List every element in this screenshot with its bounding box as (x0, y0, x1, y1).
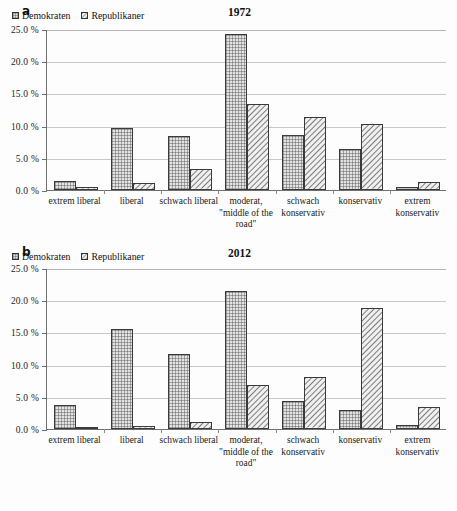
bar-demokraten[interactable] (282, 401, 304, 429)
bar-fill (362, 125, 382, 189)
bar-group (47, 269, 104, 429)
legend-swatch-republikaner-icon (81, 253, 88, 260)
bar-demokraten[interactable] (396, 187, 418, 190)
bar-group (104, 30, 161, 190)
x-axis-separator (104, 429, 105, 433)
x-axis-label: moderat, "middle of the road" (213, 435, 278, 470)
bar-demokraten[interactable] (225, 34, 247, 190)
x-axis-separator (276, 190, 277, 194)
y-axis-label: 15.0 % (11, 328, 39, 338)
x-axis-separator (390, 429, 391, 433)
bar-group (276, 269, 333, 429)
bar-fill (283, 136, 303, 189)
bar-group (161, 269, 218, 429)
bar-fill (305, 118, 325, 189)
bar-fill (134, 427, 154, 428)
legend-swatch-demokraten-icon (12, 253, 19, 260)
bar-republikaner[interactable] (361, 124, 383, 190)
x-axis-separator (390, 190, 391, 194)
bar-demokraten[interactable] (225, 291, 247, 429)
y-axis-label: 5.0 % (16, 154, 39, 164)
x-axis-label: konservativ (328, 435, 393, 447)
bar-republikaner[interactable] (361, 308, 383, 429)
y-axis-label: 0.0 % (16, 425, 39, 435)
x-axis-separator (161, 429, 162, 433)
bar-republikaner[interactable] (76, 427, 98, 429)
legend-item-demokraten: Demokraten (12, 10, 70, 21)
bar-fill (226, 35, 246, 189)
bar-fill (191, 170, 211, 189)
bar-fill (397, 426, 417, 428)
y-axis-label: 10.0 % (11, 361, 39, 371)
bar-republikaner[interactable] (304, 117, 326, 190)
bar-demokraten[interactable] (168, 354, 190, 429)
panel-a: a 1972 Demokraten Republikaner 0.0 %5.0 … (0, 0, 457, 240)
legend-a: Demokraten Republikaner (12, 10, 144, 21)
bar-group (333, 269, 390, 429)
bar-fill (397, 188, 417, 189)
x-axis-label: extrem liberal (42, 196, 107, 208)
bar-demokraten[interactable] (282, 135, 304, 190)
legend-swatch-demokraten-icon (12, 12, 19, 19)
y-axis-label: 10.0 % (11, 122, 39, 132)
bar-demokraten[interactable] (396, 425, 418, 429)
bar-fill (283, 402, 303, 428)
bar-republikaner[interactable] (190, 422, 212, 429)
y-axis-tick (42, 430, 47, 431)
bar-demokraten[interactable] (111, 329, 133, 429)
legend-label-demokraten: Demokraten (22, 10, 70, 21)
bar-republikaner[interactable] (76, 187, 98, 190)
x-axis-separator (218, 190, 219, 194)
legend-label-demokraten: Demokraten (22, 251, 70, 262)
figure-root: a 1972 Demokraten Republikaner 0.0 %5.0 … (0, 0, 457, 511)
y-axis-label: 25.0 % (11, 25, 39, 35)
bar-group (390, 30, 447, 190)
plot-area-a: 0.0 %5.0 %10.0 %15.0 %20.0 %25.0 % (46, 30, 446, 191)
bar-fill (55, 406, 75, 428)
bar-republikaner[interactable] (418, 182, 440, 190)
legend-item-republikaner: Republikaner (81, 251, 144, 262)
bar-demokraten[interactable] (54, 405, 76, 429)
bar-demokraten[interactable] (54, 181, 76, 190)
x-axis-separator (333, 429, 334, 433)
plot-area-b: 0.0 %5.0 %10.0 %15.0 %20.0 %25.0 % (46, 269, 446, 430)
bar-group (276, 30, 333, 190)
x-axis-label: extrem konservativ (385, 196, 450, 219)
bar-demokraten[interactable] (111, 128, 133, 190)
y-axis-label: 15.0 % (11, 89, 39, 99)
bar-group (218, 269, 275, 429)
x-axis-label: schwach liberal (156, 196, 221, 208)
bar-group (390, 269, 447, 429)
x-axis-separator (218, 429, 219, 433)
bar-republikaner[interactable] (133, 426, 155, 429)
bar-group (218, 30, 275, 190)
bar-demokraten[interactable] (339, 410, 361, 429)
x-axis-label: konservativ (328, 196, 393, 208)
legend-label-republikaner: Republikaner (91, 251, 144, 262)
bar-fill (77, 188, 97, 189)
bar-fill (134, 184, 154, 189)
bar-republikaner[interactable] (190, 169, 212, 190)
bar-republikaner[interactable] (418, 407, 440, 429)
bar-demokraten[interactable] (168, 136, 190, 190)
bar-republikaner[interactable] (133, 183, 155, 190)
bar-fill (55, 182, 75, 189)
y-axis-label: 25.0 % (11, 264, 39, 274)
bar-republikaner[interactable] (247, 104, 269, 190)
bar-republikaner[interactable] (304, 377, 326, 429)
x-axis-separator (333, 190, 334, 194)
bar-fill (419, 408, 439, 428)
bar-fill (169, 137, 189, 189)
bar-group (104, 269, 161, 429)
y-axis-tick (42, 191, 47, 192)
bar-fill (226, 292, 246, 428)
x-axis-separator (104, 190, 105, 194)
bar-demokraten[interactable] (339, 149, 361, 190)
legend-swatch-republikaner-icon (81, 12, 88, 19)
legend-label-republikaner: Republikaner (91, 10, 144, 21)
x-axis-label: liberal (99, 196, 164, 208)
x-axis-label: extrem liberal (42, 435, 107, 447)
x-axis-label: extrem konservativ (385, 435, 450, 458)
legend-b: Demokraten Republikaner (12, 251, 144, 262)
bar-republikaner[interactable] (247, 385, 269, 429)
